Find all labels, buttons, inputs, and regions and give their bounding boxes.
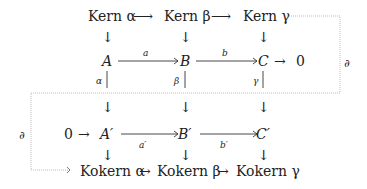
label-a: a [143,46,148,60]
kokern-alpha: Kokern α [80,164,145,178]
label-delta-left: ∂ [19,129,25,143]
kokern-beta: Kokern β [157,164,221,178]
label-alpha: α [96,74,102,88]
down-arrow: ↓ [258,100,270,114]
label-gamma: γ [253,74,258,88]
object-a-prime: A′ [100,127,113,141]
object-b-prime: B′ [178,127,191,141]
down-arrow: ↓ [258,148,270,162]
arrow-c-zero: → [274,54,286,68]
down-arrow: ↓ [102,148,114,162]
kern-gamma: Kern γ [243,9,290,23]
arrow-zero-aprime: → [78,127,90,141]
arrow-kern-beta-gamma: ⟶ [211,9,231,23]
down-arrow: ↓ [102,30,114,44]
object-a: A [102,54,112,68]
arrow-kern-alpha-beta: ⟶ [133,9,153,23]
zero-top: 0 [296,54,305,68]
down-arrow: ↓ [180,100,192,114]
down-arrow: ↓ [102,100,114,114]
down-arrow: ↓ [180,148,192,162]
label-a-prime: a′ [139,138,146,152]
arrow-kokern-alpha-beta: → [139,164,151,178]
kern-alpha: Kern α [88,9,136,23]
object-c-prime: C′ [256,127,270,141]
kokern-gamma: Kokern γ [236,164,300,178]
label-b: b [222,46,228,60]
label-delta-right: ∂ [344,57,350,71]
down-arrow: ↓ [180,30,192,44]
down-arrow: ↓ [258,30,270,44]
kern-beta: Kern β [164,9,211,23]
zero-bottom: 0 [64,127,73,141]
object-c: C [258,54,269,68]
label-beta: β [174,74,179,88]
object-b: B [180,54,190,68]
arrow-kokern-beta-gamma: → [217,164,229,178]
label-b-prime: b′ [220,138,228,152]
